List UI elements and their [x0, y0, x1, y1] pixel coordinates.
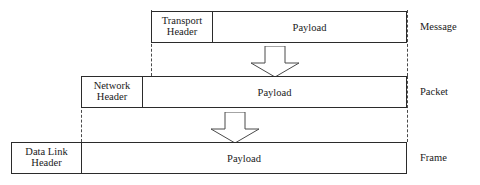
arrow-packet-to-frame [210, 112, 260, 144]
pdu-row-message: Transport Header Payload [151, 11, 407, 43]
transport-header-line2: Header [167, 26, 197, 37]
arrow-message-to-packet [250, 46, 300, 78]
transport-header-line1: Transport [162, 15, 202, 26]
frame-payload-label: Payload [227, 153, 261, 164]
pdu-name-packet: Packet [420, 76, 448, 108]
packet-payload-label: Payload [258, 87, 292, 98]
data-link-header-cell: Data Link Header [12, 143, 82, 173]
guide-line-message-right [407, 10, 408, 76]
network-header-line2: Header [97, 91, 127, 102]
pdu-name-frame: Frame [420, 142, 447, 174]
data-link-header-line1: Data Link [25, 146, 67, 157]
transport-header-cell: Transport Header [152, 12, 213, 42]
down-arrow-icon [210, 112, 260, 144]
pdu-name-packet-label: Packet [420, 76, 448, 108]
guide-line-packet-right [407, 76, 408, 142]
down-arrow-icon [250, 46, 300, 78]
message-payload-cell: Payload [213, 12, 406, 42]
packet-payload-cell: Payload [143, 77, 406, 107]
pdu-name-message-label: Message [420, 11, 457, 43]
network-header-line1: Network [94, 80, 131, 91]
pdu-row-frame: Data Link Header Payload [11, 142, 407, 174]
pdu-name-frame-label: Frame [420, 142, 447, 174]
data-link-header-line2: Header [31, 157, 61, 168]
frame-payload-cell: Payload [82, 143, 406, 173]
network-header-cell: Network Header [82, 77, 143, 107]
encapsulation-diagram: Transport Header Payload Message Network… [0, 0, 480, 185]
pdu-name-message: Message [420, 11, 457, 43]
pdu-row-packet: Network Header Payload [81, 76, 407, 108]
message-payload-label: Payload [293, 22, 327, 33]
